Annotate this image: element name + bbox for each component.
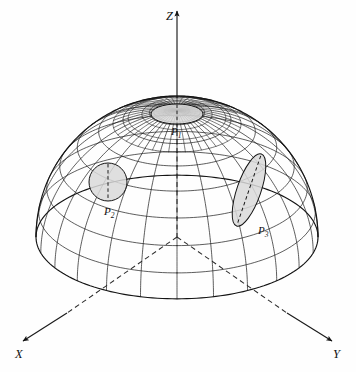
patch-label-subscript: 1 [178,131,182,140]
patch-label-p2: P2 [103,205,115,220]
x-axis-label: X [14,347,24,361]
y-axis [287,313,332,341]
patch-label-p3: P3 [257,224,269,239]
hemisphere-figure: Z X Y P1P2P3 [0,0,356,372]
patch-label-subscript: 2 [111,211,115,220]
patch-p1 [151,104,203,124]
patch-label-subscript: 3 [264,230,269,239]
x-axis [23,313,67,341]
y-axis-label: Y [333,347,342,361]
y-axis-hidden-segment [177,237,287,313]
figure-root: Z X Y P1P2P3 [0,0,356,372]
patch-label-p1: P1 [170,125,181,140]
patch-p2 [89,163,127,201]
z-axis-label: Z [166,9,174,23]
x-axis-hidden-segment [67,237,177,313]
